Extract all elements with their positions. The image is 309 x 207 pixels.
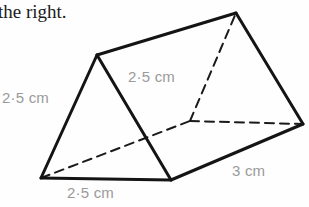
edge-back-right-slant bbox=[236, 13, 303, 124]
hidden-edge-back-bottom-left-to-back-apex bbox=[190, 13, 236, 121]
hidden-edge-back-bottom-left-to-back-bottom-right bbox=[190, 121, 303, 124]
solid-edges-group bbox=[41, 13, 303, 180]
hidden-edges-group bbox=[41, 13, 303, 178]
edge-front-bottom bbox=[41, 178, 171, 180]
label-left-side-length: 2·5 cm bbox=[2, 90, 49, 105]
diagram-page: the right. 2·5 cm 2·5 cm 2·5 cm 3 cm bbox=[0, 0, 309, 207]
label-bottom-edge-length: 2·5 cm bbox=[67, 185, 114, 200]
caption-text: the right. bbox=[0, 2, 67, 21]
edge-top-ridge bbox=[97, 13, 236, 55]
label-slant-face-length: 2·5 cm bbox=[128, 69, 175, 84]
label-depth-edge-length: 3 cm bbox=[232, 163, 265, 178]
